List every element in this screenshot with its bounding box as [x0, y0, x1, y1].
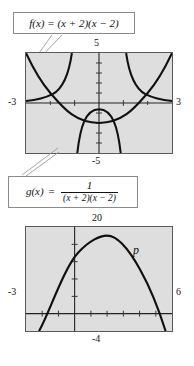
bottom-graph-y-max-label: 20: [92, 212, 102, 223]
top-graph-x-min-label: -3: [8, 96, 16, 107]
g-equation-lhs: g(x): [26, 186, 44, 197]
bottom-graph-y-min-label: -4: [92, 333, 100, 344]
bottom-graph-svg: [26, 227, 172, 331]
curve-p-label: p: [133, 243, 139, 258]
curve-g-left: [26, 53, 72, 101]
top-axes: [26, 53, 172, 153]
g-equation-fraction: 1 (x + 2)(x − 2): [61, 180, 118, 205]
top-graph-plot: [25, 52, 173, 154]
bottom-graph-x-min-label: -3: [8, 286, 16, 297]
bottom-graph-x-max-label: 6: [176, 286, 181, 297]
top-graph-x-max-label: 3: [176, 96, 181, 107]
top-graph-svg: [26, 53, 172, 153]
g-fraction-denominator: (x + 2)(x − 2): [61, 194, 118, 204]
f-equation-text: f(x) = (x + 2)(x − 2): [29, 18, 118, 29]
top-graph-y-max-label: 5: [94, 37, 99, 48]
bottom-axes: [26, 227, 172, 331]
top-graph-y-min-label: -5: [92, 155, 100, 166]
curve-p: [39, 236, 166, 331]
f-equation-callout: f(x) = (x + 2)(x − 2): [13, 12, 135, 34]
curve-g-right: [126, 53, 172, 101]
bottom-graph-plot: [25, 226, 173, 332]
g-equation-callout: g(x) = 1 (x + 2)(x − 2): [8, 176, 138, 208]
figure-root: f(x) = (x + 2)(x − 2): [0, 0, 194, 366]
g-fraction-numerator: 1: [85, 180, 95, 192]
g-equation-equals: =: [48, 186, 55, 197]
